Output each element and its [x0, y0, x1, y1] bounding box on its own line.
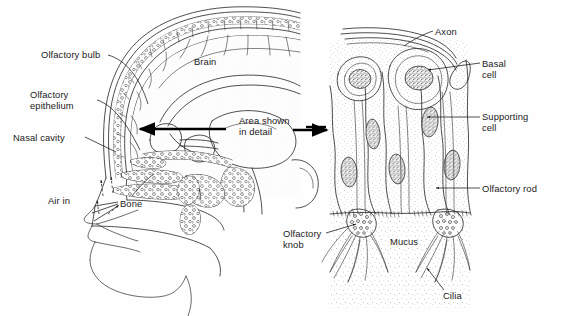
- label-cilia: Cilia: [443, 290, 462, 301]
- label-area-shown-line1: Area shown: [239, 115, 290, 126]
- label-area-shown-line2: in detail: [239, 126, 272, 137]
- face-profile: [84, 206, 191, 316]
- label-brain: Brain: [194, 56, 216, 67]
- label-supporting-cell-line2: cell: [482, 122, 496, 133]
- label-axon: Axon: [435, 26, 457, 37]
- label-supporting-cell-line1: Supporting: [482, 111, 528, 122]
- label-basal-cell-line1: Basal: [482, 58, 506, 69]
- label-olfactory-bulb: Olfactory bulb: [41, 49, 100, 60]
- left-panel-artwork: [84, 7, 318, 316]
- label-nasal-cavity: Nasal cavity: [13, 132, 65, 143]
- label-basal-cell-line2: cell: [482, 69, 496, 80]
- label-olfactory-knob-line1: Olfactory: [283, 228, 321, 239]
- diagram-artwork: [0, 0, 568, 316]
- right-panel-artwork: [322, 28, 471, 308]
- label-mucus: Mucus: [390, 236, 418, 247]
- label-bone: Bone: [120, 198, 142, 209]
- label-olfactory-epithelium-line2: epithelium: [30, 100, 74, 111]
- label-olfactory-knob-line2: knob: [283, 239, 304, 250]
- label-olfactory-rod: Olfactory rod: [482, 183, 537, 194]
- label-olfactory-epithelium-line1: Olfactory: [30, 89, 68, 100]
- label-air-in: Air in: [48, 195, 70, 206]
- figure-root: Olfactory bulb Olfactory epithelium Nasa…: [0, 0, 568, 316]
- airflow-arrows: [97, 177, 119, 214]
